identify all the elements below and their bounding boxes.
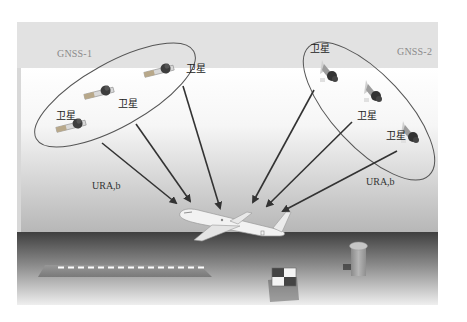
gnss2-label: GNSS-2 (397, 47, 432, 57)
satellite-label: 卫星 (386, 131, 406, 141)
satellite-label: 卫星 (56, 111, 76, 121)
ura-b-label-left: URA,b (92, 181, 121, 191)
satellite-label: 卫星 (118, 99, 138, 109)
runway (38, 265, 212, 277)
satellite-label: 卫星 (186, 64, 206, 74)
satellite-label: 卫星 (310, 44, 330, 54)
gnss1-label: GNSS-1 (57, 49, 92, 59)
ura-b-label-right: URA,b (366, 177, 395, 187)
satellite-label: 卫星 (357, 111, 377, 121)
reference-station (268, 268, 299, 302)
